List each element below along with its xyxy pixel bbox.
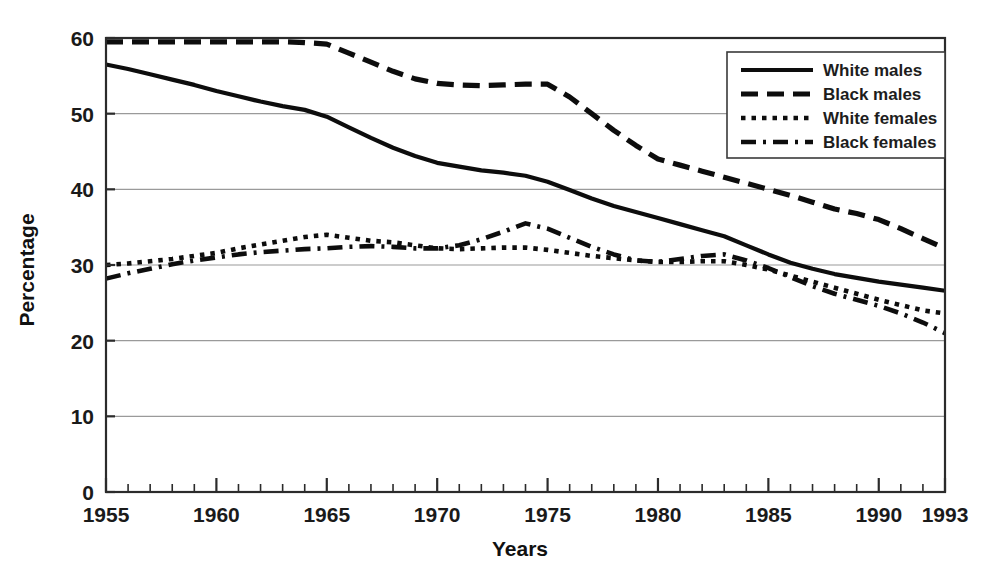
x-tick-label: 1993 xyxy=(922,503,969,526)
series-line-white-females xyxy=(106,235,945,314)
chart-legend: White malesBlack malesWhite femalesBlack… xyxy=(727,52,945,158)
x-tick-label: 1965 xyxy=(303,503,350,526)
y-tick-label: 30 xyxy=(71,254,94,277)
legend-label: Black females xyxy=(823,133,936,152)
x-tick-label: 1960 xyxy=(193,503,240,526)
y-tick-label: 50 xyxy=(71,103,94,126)
y-axis-ticks: 0102030405060 xyxy=(71,27,115,504)
series-line-black-females xyxy=(106,223,945,333)
x-axis-ticks: 195519601965197019751980198519901993 xyxy=(83,478,969,526)
x-axis-title: Years xyxy=(492,537,548,560)
x-tick-label: 1975 xyxy=(524,503,571,526)
legend-label: White males xyxy=(823,61,922,80)
y-tick-label: 20 xyxy=(71,330,94,353)
y-tick-label: 10 xyxy=(71,405,94,428)
y-axis-title: Percentage xyxy=(15,213,38,326)
y-tick-label: 40 xyxy=(71,178,94,201)
x-tick-label: 1970 xyxy=(414,503,461,526)
legend-label: White females xyxy=(823,109,937,128)
y-tick-label: 60 xyxy=(71,27,94,50)
line-chart: 195519601965197019751980198519901993 010… xyxy=(0,0,982,569)
x-tick-label: 1980 xyxy=(635,503,682,526)
legend-label: Black males xyxy=(823,85,921,104)
y-tick-label: 0 xyxy=(82,481,94,504)
x-tick-label: 1985 xyxy=(745,503,792,526)
x-tick-label: 1955 xyxy=(83,503,130,526)
chart-canvas: 195519601965197019751980198519901993 010… xyxy=(0,0,982,569)
x-tick-label: 1990 xyxy=(855,503,902,526)
